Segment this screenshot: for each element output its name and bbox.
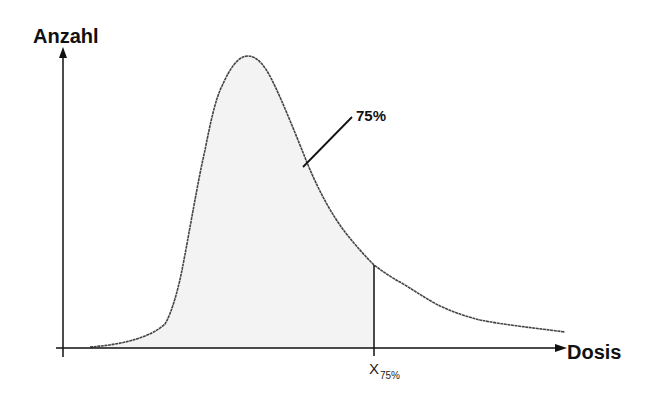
y-axis-arrow-icon [59, 47, 67, 58]
area-percent-label: 75% [356, 107, 386, 124]
x-axis-arrow-icon [555, 344, 567, 352]
percentile-label-sub: 75% [380, 370, 400, 381]
shaded-area-75-percent [90, 56, 374, 348]
y-axis-label: Anzahl [33, 25, 99, 47]
dose-distribution-chart: Anzahl Dosis 75% X 75% [0, 0, 659, 395]
x-axis-label: Dosis [567, 341, 621, 363]
annotation-leader-line [303, 117, 352, 167]
percentile-label-main: X [369, 360, 379, 377]
